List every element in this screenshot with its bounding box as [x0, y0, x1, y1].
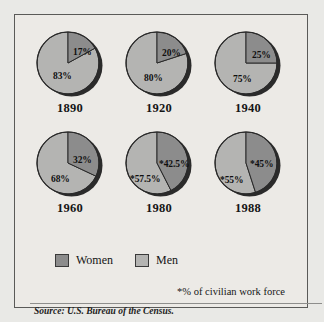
- slice-label-men-1940: 75%: [233, 74, 252, 84]
- pie-graphic-1890: 17%83%1890: [31, 27, 109, 101]
- slice-label-women-1988: *45%: [250, 159, 273, 169]
- pie-year-label-1960: 1960: [31, 201, 109, 216]
- pie-year-label-1940: 1940: [209, 101, 287, 116]
- slice-label-women-1980: *42.5%: [159, 159, 189, 169]
- pie-chart-1988: *45%*55%1988: [205, 127, 291, 223]
- slice-label-women-1920: 20%: [162, 48, 181, 58]
- pie-svg-1920: [120, 27, 198, 101]
- pie-year-label-1988: 1988: [209, 201, 287, 216]
- source-divider: [30, 303, 322, 304]
- pie-year-label-1920: 1920: [120, 101, 198, 116]
- slice-label-women-1890: 17%: [73, 47, 92, 57]
- slice-label-men-1890: 83%: [53, 71, 72, 81]
- pie-chart-1920: 20%80%1920: [116, 27, 202, 123]
- slice-label-women-1960: 32%: [73, 155, 92, 165]
- chart-legend: Women Men: [55, 253, 178, 268]
- chart-frame: 17%83%189020%80%192025%75%194032%68%1960…: [14, 14, 308, 308]
- chart-footnote: *% of civilian work force: [177, 286, 285, 297]
- chart-figure: 17%83%189020%80%192025%75%194032%68%1960…: [0, 0, 324, 322]
- pie-year-label-1890: 1890: [31, 101, 109, 116]
- legend-swatch-women: [55, 254, 69, 267]
- legend-item-women: Women: [55, 253, 113, 268]
- pie-chart-1960: 32%68%1960: [27, 127, 113, 223]
- slice-label-men-1920: 80%: [144, 73, 163, 83]
- legend-item-men: Men: [135, 253, 178, 268]
- legend-swatch-men: [135, 254, 149, 267]
- legend-label-men: Men: [156, 253, 178, 268]
- pie-svg-1960: [31, 127, 109, 201]
- pie-graphic-1960: 32%68%1960: [31, 127, 109, 201]
- pie-chart-1940: 25%75%1940: [205, 27, 291, 123]
- chart-source: Source: U.S. Bureau of the Census.: [34, 306, 174, 316]
- pie-svg-1940: [209, 27, 287, 101]
- pie-svg-1988: [209, 127, 287, 201]
- slice-label-men-1988: *55%: [220, 175, 243, 185]
- slice-label-men-1960: 68%: [51, 174, 70, 184]
- pie-year-label-1980: 1980: [120, 201, 198, 216]
- pie-graphic-1988: *45%*55%1988: [209, 127, 287, 201]
- pie-graphic-1980: *42.5%*57.5%1980: [120, 127, 198, 201]
- pie-svg-1890: [31, 27, 109, 101]
- pie-graphic-1920: 20%80%1920: [120, 27, 198, 101]
- pie-graphic-1940: 25%75%1940: [209, 27, 287, 101]
- pie-chart-1980: *42.5%*57.5%1980: [116, 127, 202, 223]
- slice-label-women-1940: 25%: [252, 50, 271, 60]
- slice-label-men-1980: *57.5%: [130, 174, 160, 184]
- legend-label-women: Women: [76, 253, 113, 268]
- pie-chart-1890: 17%83%1890: [27, 27, 113, 123]
